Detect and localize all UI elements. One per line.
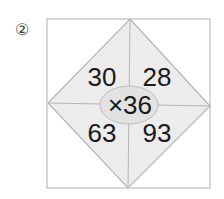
- cell-top-right: 28: [143, 62, 172, 92]
- cell-bottom-right: 93: [143, 118, 172, 148]
- cell-top-left: 30: [88, 62, 117, 92]
- center-operation: ×36: [108, 90, 152, 120]
- multiplication-diamond-diagram: 30 28 63 93 ×36: [0, 0, 224, 199]
- cell-bottom-left: 63: [88, 118, 117, 148]
